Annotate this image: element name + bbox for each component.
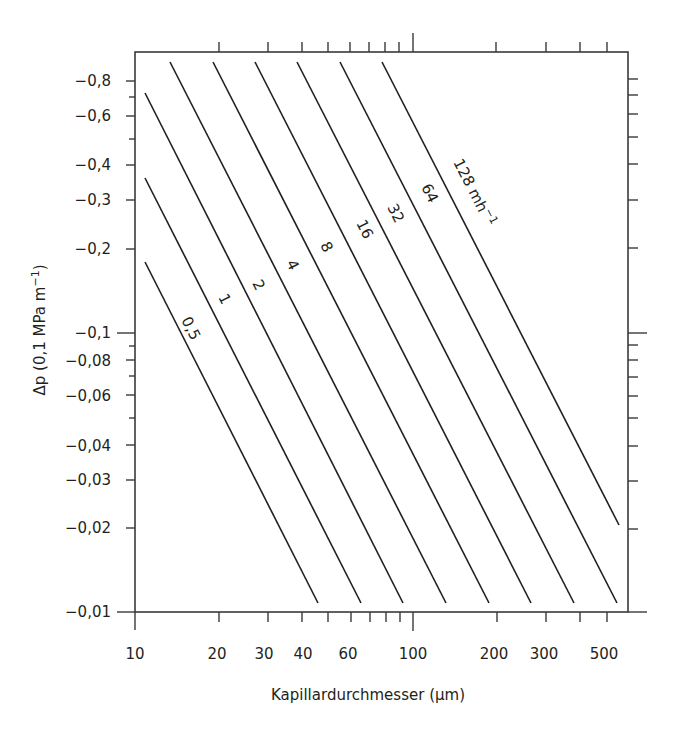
y-tick-label: −0,4 [75, 156, 111, 174]
x-axis-bottom-ticks [135, 612, 647, 631]
x-tick-label: 40 [293, 645, 312, 663]
x-tick-label: 30 [254, 645, 273, 663]
y-tick-label: −0,08 [65, 352, 111, 370]
x-tick-label: 500 [590, 645, 619, 663]
series-label-4: 4 [282, 257, 302, 274]
series-lines [145, 62, 619, 603]
x-tick-label: 100 [399, 645, 428, 663]
y-tick-label: −0,6 [75, 107, 111, 125]
y-tick-label: −0,06 [65, 387, 111, 405]
x-axis-title: Kapillardurchmesser (µm) [271, 686, 465, 704]
y-tick-label: −0,02 [65, 519, 111, 537]
y-axis-title-close: ) [31, 265, 49, 271]
y-axis-title-sup: −1 [29, 270, 42, 286]
y-tick-label: −0,8 [75, 72, 111, 90]
y-axis-tick-labels: −0,8 −0,6 −0,4 −0,3 −0,2 −0,1 −0,08 −0,0… [65, 72, 111, 621]
y-tick-label: −0,04 [65, 437, 111, 455]
series-label-64: 64 [417, 181, 442, 206]
x-tick-label: 300 [530, 645, 559, 663]
y-axis-title: Δp (0,1 MPa m−1) [29, 265, 49, 396]
series-labels: 0,5 1 2 4 8 16 32 64 128 mh−1 [177, 155, 500, 343]
y-tick-label: −0,03 [65, 471, 111, 489]
y-tick-label: −0,1 [75, 324, 111, 342]
x-axis-tick-labels: 10 20 30 40 60 100 200 300 500 [125, 645, 618, 663]
series-label-0-5: 0,5 [177, 314, 204, 343]
y-axis-left-ticks [117, 81, 135, 612]
y-axis-right-ticks [628, 79, 647, 529]
plot-frame [135, 52, 628, 612]
series-line-32 [297, 62, 574, 603]
series-line-8 [213, 62, 489, 603]
series-label-2: 2 [248, 277, 268, 294]
x-axis-top-ticks [219, 33, 607, 52]
series-label-16: 16 [352, 217, 377, 242]
series-line-16 [255, 62, 531, 603]
series-label-1: 1 [214, 291, 234, 308]
x-tick-label: 200 [480, 645, 509, 663]
series-line-2 [145, 93, 403, 603]
series-label-32: 32 [383, 201, 408, 226]
x-tick-label: 10 [125, 645, 144, 663]
y-tick-label: −0,3 [75, 191, 111, 209]
chart: −0,8 −0,6 −0,4 −0,3 −0,2 −0,1 −0,08 −0,0… [0, 0, 676, 731]
x-tick-label: 60 [338, 645, 357, 663]
series-line-128 [382, 62, 619, 525]
series-label-8: 8 [316, 239, 336, 256]
series-line-64 [340, 62, 617, 603]
y-tick-label: −0,2 [75, 240, 111, 258]
series-label-128: 128 mh−1 [449, 155, 500, 230]
y-tick-label: −0,01 [65, 603, 111, 621]
x-tick-label: 20 [207, 645, 226, 663]
series-line-4 [170, 62, 446, 603]
y-axis-title-main: Δp (0,1 MPa m [31, 287, 49, 396]
series-line-0-5 [145, 262, 318, 603]
